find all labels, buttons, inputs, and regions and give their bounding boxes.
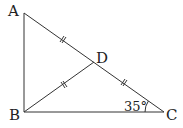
label-d: D (96, 49, 108, 67)
triangle-diagram (0, 0, 183, 128)
label-a: A (8, 2, 19, 20)
label-c: C (166, 106, 177, 124)
angle-label-c: 35° (124, 99, 147, 114)
label-b: B (9, 106, 20, 124)
segment-bd (24, 62, 94, 112)
